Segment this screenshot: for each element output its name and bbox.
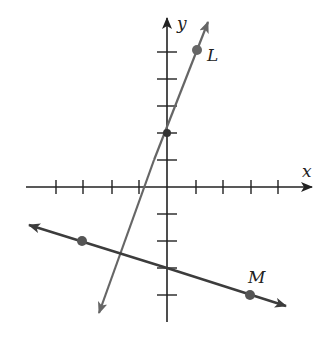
line-L-label: L [206, 45, 218, 65]
line-M: M [29, 225, 286, 306]
line-L-point [192, 45, 202, 55]
coordinate-plane: x y L M [0, 0, 329, 340]
line-L: L [99, 22, 218, 313]
line-M-label: M [247, 267, 266, 287]
y-axis: y [157, 13, 187, 322]
line-L-y-intercept-point [163, 129, 171, 137]
x-axis-label: x [302, 161, 312, 181]
line-M-point-right [245, 290, 255, 300]
y-axis-label: y [176, 13, 187, 33]
line-M-point-left [77, 236, 87, 246]
x-axis: x [26, 161, 312, 194]
